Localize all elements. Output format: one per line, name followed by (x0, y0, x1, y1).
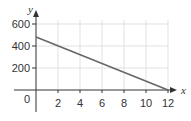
x-tick-label: 8 (121, 97, 127, 109)
x-axis-arrow-icon (170, 87, 177, 93)
y-axis-label: y (27, 3, 33, 15)
y-tick-label: 600 (12, 18, 30, 30)
y-tick-label: 400 (12, 40, 30, 52)
line-chart: y x 600 400 200 0 2 4 6 8 10 12 (0, 0, 191, 121)
y-tick-label: 200 (12, 62, 30, 74)
origin-label: 0 (24, 93, 30, 105)
x-tick-label: 12 (162, 97, 174, 109)
x-axis-label: x (180, 84, 186, 96)
x-tick-label: 2 (55, 97, 61, 109)
x-tick-label: 4 (77, 97, 83, 109)
x-tick-label: 10 (140, 97, 152, 109)
grid (36, 20, 168, 90)
y-axis-arrow-icon (33, 10, 39, 17)
x-tick-label: 6 (99, 97, 105, 109)
